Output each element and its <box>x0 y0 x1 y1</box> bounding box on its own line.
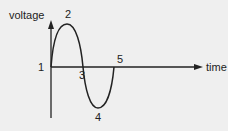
point-label-3: 3 <box>79 69 85 81</box>
sine-wave-curve <box>51 24 114 108</box>
x-axis-label: time <box>206 61 227 73</box>
y-axis-arrow-icon <box>48 20 54 29</box>
point-label-1: 1 <box>38 61 44 73</box>
sine-wave-diagram: voltage time 1 2 3 4 5 <box>0 0 228 131</box>
x-axis-arrow-icon <box>194 64 203 70</box>
point-label-2: 2 <box>65 8 71 20</box>
point-label-4: 4 <box>95 111 101 123</box>
y-axis-label: voltage <box>9 9 44 21</box>
diagram-canvas: voltage time 1 2 3 4 5 <box>0 0 228 131</box>
point-label-5: 5 <box>117 53 123 65</box>
